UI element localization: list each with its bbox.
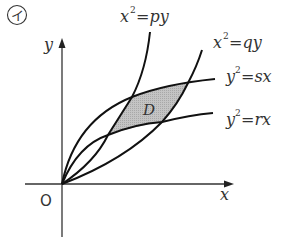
svg-text:2: 2: [223, 31, 229, 41]
label-x2-qy: x 2 =qy: [213, 31, 263, 52]
svg-text:=qy: =qy: [229, 33, 263, 52]
region-diagram: イ y x O x 2 =py x 2 =qy y 2 =sx y 2 =rx …: [0, 0, 281, 249]
panel-label: イ: [11, 8, 24, 23]
label-x2-py: x 2 =py: [120, 5, 170, 26]
curve-y2-sx: [62, 79, 215, 184]
x-axis-label: x: [220, 185, 229, 204]
region-label: D: [142, 101, 155, 119]
svg-text:2: 2: [235, 108, 241, 118]
diagram-canvas: イ y x O x 2 =py x 2 =qy y 2 =sx y 2 =rx …: [0, 0, 281, 249]
y-axis-arrow-icon: [59, 38, 66, 48]
svg-text:=sx: =sx: [241, 67, 272, 86]
svg-text:=rx: =rx: [241, 110, 271, 129]
svg-text:x: x: [213, 33, 222, 52]
svg-text:=py: =py: [136, 7, 170, 26]
svg-text:2: 2: [130, 5, 136, 15]
label-y2-sx: y 2 =sx: [225, 65, 272, 86]
y-axis-label: y: [43, 35, 54, 54]
origin-label: O: [40, 192, 52, 210]
svg-text:x: x: [120, 7, 129, 26]
svg-text:2: 2: [235, 65, 241, 75]
label-y2-rx: y 2 =rx: [225, 108, 271, 129]
